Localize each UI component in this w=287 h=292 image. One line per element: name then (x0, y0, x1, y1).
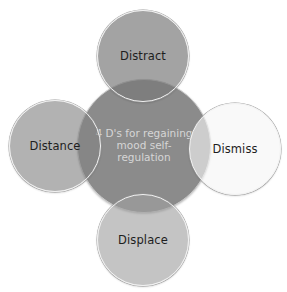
node-distract: Distract (97, 10, 189, 102)
center-label-line-2: mood self- (88, 139, 200, 151)
node-displace: Displace (97, 194, 189, 286)
center-label-line-3: regulation (88, 151, 200, 163)
node-label-distract: Distract (120, 49, 166, 63)
node-dismiss: Dismiss (189, 103, 281, 195)
center-label-line-1: 4 D's for regaining (88, 127, 200, 139)
node-label-distance: Distance (29, 139, 80, 153)
center-label: 4 D's for regaining mood self- regulatio… (88, 127, 200, 163)
node-label-dismiss: Dismiss (212, 142, 257, 156)
node-label-displace: Displace (118, 233, 168, 247)
radial-diagram: 4 D's for regaining mood self- regulatio… (0, 0, 287, 292)
node-distance: Distance (9, 100, 101, 192)
